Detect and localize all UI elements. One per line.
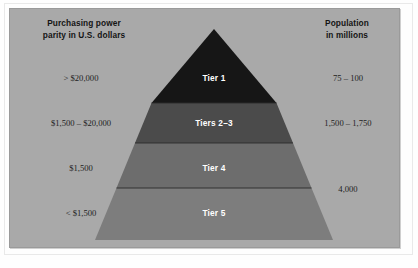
- population-value-tier1: 75 – 100: [288, 73, 408, 83]
- pyramid-label-tier1: Tier 1: [154, 73, 274, 83]
- ppp-value-tier4: $1,500: [6, 163, 156, 173]
- right-column-heading: Population in millions: [292, 18, 402, 41]
- pyramid-label-tier5: Tier 5: [154, 208, 274, 218]
- right-column-heading-line2: in millions: [292, 30, 402, 42]
- pyramid-band-tier1: [152, 29, 277, 103]
- pyramid-label-tier23: Tiers 2–3: [154, 118, 274, 128]
- pyramid-figure: Purchasing power parity in U.S. dollars …: [0, 0, 418, 268]
- left-column-heading: Purchasing power parity in U.S. dollars: [14, 18, 154, 41]
- right-column-heading-line1: Population: [292, 18, 402, 30]
- ppp-value-tier23: $1,500 – $20,000: [6, 118, 156, 128]
- pyramid-label-tier4: Tier 4: [154, 163, 274, 173]
- population-value-tier23: 1,500 – 1,750: [288, 118, 408, 128]
- population-value-tier45: 4,000: [288, 184, 408, 194]
- left-column-heading-line1: Purchasing power: [14, 18, 154, 30]
- ppp-value-tier1: > $20,000: [6, 73, 156, 83]
- ppp-value-tier5: < $1,500: [6, 208, 156, 218]
- left-column-heading-line2: parity in U.S. dollars: [14, 30, 154, 42]
